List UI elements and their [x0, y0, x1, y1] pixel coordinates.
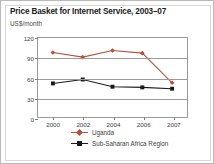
legend-label-africa: Sub-Saharan Africa Region	[92, 140, 168, 147]
y-tick-mark	[35, 99, 38, 100]
chart-title: Price Basket for Internet Service, 2003–…	[10, 7, 166, 16]
y-tick-label: 0	[31, 116, 34, 123]
x-tick-mark	[144, 117, 145, 120]
square-marker-icon	[170, 87, 174, 91]
chart-figure: Price Basket for Internet Service, 2003–…	[0, 0, 214, 164]
gridline	[38, 79, 187, 80]
series-layer	[38, 38, 187, 117]
y-tick-label: 60	[27, 75, 34, 82]
legend-swatch-africa	[71, 140, 88, 147]
legend-item-africa: Sub-Saharan Africa Region	[37, 138, 188, 149]
diamond-marker-icon	[76, 129, 83, 136]
y-tick-mark	[35, 119, 38, 120]
legend-swatch-uganda	[71, 129, 88, 136]
square-marker-icon	[140, 85, 144, 89]
gridline	[38, 99, 187, 100]
diamond-marker-icon	[51, 50, 56, 55]
square-marker-icon	[77, 141, 82, 146]
y-tick-mark	[35, 38, 38, 39]
square-marker-icon	[51, 81, 55, 85]
legend-label-uganda: Uganda	[92, 129, 114, 136]
y-tick-mark	[35, 79, 38, 80]
y-axis-label: US$/month	[10, 20, 42, 27]
square-marker-icon	[111, 85, 115, 89]
legend-item-uganda: Uganda	[37, 127, 188, 138]
y-tick-mark	[35, 58, 38, 59]
y-tick-label: 30	[27, 95, 34, 102]
y-tick-label: 90	[27, 55, 34, 62]
x-tick-mark	[83, 117, 84, 120]
x-tick-mark	[53, 117, 54, 120]
gridline	[38, 58, 187, 59]
plot-area: 030609012020002002200420062007	[37, 37, 188, 118]
x-tick-mark	[174, 117, 175, 120]
diamond-marker-icon	[110, 48, 115, 53]
chart-legend: Uganda Sub-Saharan Africa Region	[37, 127, 188, 149]
x-tick-mark	[114, 117, 115, 120]
y-tick-label: 120	[24, 35, 34, 42]
